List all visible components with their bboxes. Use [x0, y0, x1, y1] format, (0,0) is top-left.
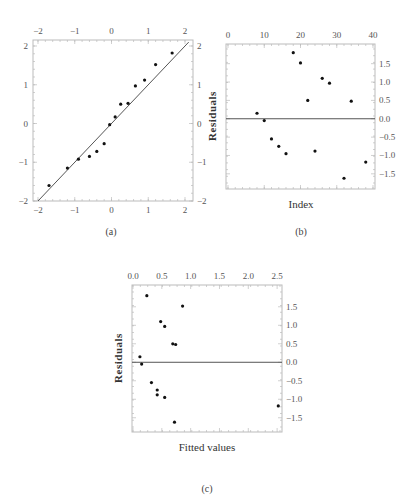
- data-point: [171, 342, 174, 345]
- panel-caption: (b): [295, 226, 307, 238]
- x-tick-label-top: −2: [33, 26, 43, 36]
- y-tick-label-right: −1.0: [286, 394, 303, 404]
- x-tick-label-top: 0: [109, 26, 114, 36]
- data-point: [292, 51, 295, 54]
- data-point: [126, 102, 129, 105]
- data-point: [284, 152, 287, 155]
- data-point: [181, 304, 184, 307]
- data-point: [138, 355, 141, 358]
- figure-canvas: −2−2−1−1001122−2−2−1−1001122(a)010203040…: [0, 0, 412, 502]
- x-axis-label: Fitted values: [179, 441, 236, 453]
- y-tick-label-right: −0.5: [286, 376, 303, 386]
- data-point: [277, 404, 280, 407]
- x-tick-label-top: 30: [332, 30, 342, 40]
- data-point: [159, 320, 162, 323]
- x-tick-label-top: 1.5: [214, 271, 226, 281]
- data-point: [313, 149, 316, 152]
- data-point: [277, 145, 280, 148]
- data-point: [163, 325, 166, 328]
- y-tick-label-left: 2: [24, 41, 29, 51]
- y-tick-label-left: −1: [18, 157, 28, 167]
- chart-panel-c: 0.00.51.01.52.02.5−1.5−1.0−0.50.00.51.01…: [112, 271, 303, 495]
- data-point: [103, 142, 106, 145]
- y-tick-label-right: 1.5: [379, 59, 391, 69]
- data-point: [328, 82, 331, 85]
- x-tick-label-bottom: 1: [146, 205, 151, 215]
- data-point: [263, 119, 266, 122]
- x-tick-label-top: 0.5: [156, 271, 168, 281]
- y-tick-label-left: 1: [24, 80, 29, 90]
- data-point: [299, 61, 302, 64]
- data-point: [145, 294, 148, 297]
- y-tick-label-right: 1.0: [379, 77, 391, 87]
- x-tick-label-top: 1: [146, 26, 151, 36]
- x-tick-label-top: 0: [226, 30, 231, 40]
- data-point: [255, 112, 258, 115]
- y-axis-label: Residuals: [112, 333, 124, 383]
- y-tick-label-right: 1: [197, 80, 202, 90]
- y-axis-label: Residuals: [206, 91, 218, 141]
- x-tick-label-top: 0.0: [127, 271, 139, 281]
- y-tick-label-right: −1.0: [379, 150, 396, 160]
- data-point: [156, 388, 159, 391]
- x-axis-label: Index: [288, 198, 314, 210]
- plot-frame: [132, 285, 282, 432]
- data-point: [306, 99, 309, 102]
- y-tick-label-right: 0.5: [379, 95, 391, 105]
- x-tick-label-top: 2: [183, 26, 188, 36]
- data-point: [154, 63, 157, 66]
- qq-reference-line: [38, 42, 189, 201]
- x-tick-label-top: 1.0: [185, 271, 197, 281]
- y-tick-label-right: −1.5: [379, 169, 396, 179]
- y-tick-label-left: −2: [18, 196, 28, 206]
- data-point: [88, 155, 91, 158]
- data-point: [173, 421, 176, 424]
- data-point: [77, 158, 80, 161]
- x-tick-label-bottom: 0: [109, 205, 114, 215]
- x-tick-label-top: 2.0: [243, 271, 255, 281]
- data-point: [114, 115, 117, 118]
- data-point: [163, 396, 166, 399]
- data-point: [150, 381, 153, 384]
- panel-caption: (a): [105, 226, 116, 238]
- chart-panel-a: −2−2−1−1001122−2−2−1−1001122(a): [18, 26, 206, 238]
- plot-frame: [226, 44, 375, 189]
- data-point: [364, 160, 367, 163]
- data-point: [143, 79, 146, 82]
- y-tick-label-right: 2: [197, 41, 202, 51]
- data-point: [174, 343, 177, 346]
- x-tick-label-bottom: −1: [70, 205, 80, 215]
- x-tick-label-top: 10: [260, 30, 270, 40]
- data-point: [119, 103, 122, 106]
- data-point: [171, 51, 174, 54]
- y-tick-label-right: 0.0: [286, 357, 298, 367]
- data-point: [350, 100, 353, 103]
- x-tick-label-top: 40: [369, 30, 379, 40]
- y-tick-label-right: 1.5: [286, 302, 298, 312]
- y-tick-label-right: −1: [197, 157, 207, 167]
- data-point: [108, 123, 111, 126]
- y-tick-label-right: 0.5: [286, 339, 298, 349]
- panel-caption: (c): [201, 483, 212, 495]
- data-point: [140, 363, 143, 366]
- x-tick-label-top: 20: [296, 30, 306, 40]
- x-tick-label-top: −1: [70, 26, 80, 36]
- x-tick-label-top: 2.5: [271, 271, 283, 281]
- data-point: [342, 177, 345, 180]
- data-point: [134, 84, 137, 87]
- chart-panel-b: 010203040−1.5−1.0−0.50.00.51.01.5IndexRe…: [206, 30, 396, 238]
- plot-frame: [33, 40, 193, 201]
- y-tick-label-right: 1.0: [286, 320, 298, 330]
- data-point: [156, 393, 159, 396]
- data-point: [270, 137, 273, 140]
- y-tick-label-right: −2: [197, 196, 207, 206]
- data-point: [95, 150, 98, 153]
- y-tick-label-left: 0: [24, 119, 29, 129]
- y-tick-label-right: 0.0: [379, 114, 391, 124]
- x-tick-label-bottom: 2: [183, 205, 188, 215]
- x-tick-label-bottom: −2: [33, 205, 43, 215]
- data-point: [47, 184, 50, 187]
- y-tick-label-right: −0.5: [379, 132, 396, 142]
- data-point: [321, 77, 324, 80]
- y-tick-label-right: −1.5: [286, 413, 303, 423]
